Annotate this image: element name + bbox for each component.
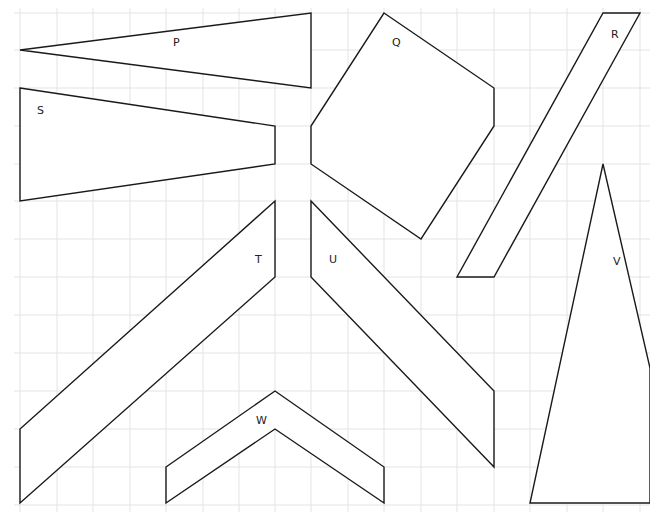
shape-label: R xyxy=(611,28,619,41)
shape-q: Q xyxy=(311,13,494,239)
shape-label: U xyxy=(329,253,337,266)
shape-label: P xyxy=(173,36,180,49)
shape-label: V xyxy=(613,255,621,268)
shape-outline xyxy=(530,164,650,503)
shape-s: S xyxy=(20,88,275,201)
shape-t: T xyxy=(20,201,275,503)
shape-label: Q xyxy=(392,36,401,49)
shape-v: V xyxy=(530,164,650,503)
shape-outline xyxy=(311,201,494,467)
shape-outline xyxy=(311,13,494,239)
shape-label: S xyxy=(37,104,44,117)
shape-label: T xyxy=(254,253,262,266)
shape-label: W xyxy=(256,414,267,427)
shape-outline xyxy=(20,201,275,503)
shape-grid-diagram: PQRSTUVW xyxy=(0,0,650,520)
shape-u: U xyxy=(311,201,494,467)
shape-outline xyxy=(20,88,275,201)
